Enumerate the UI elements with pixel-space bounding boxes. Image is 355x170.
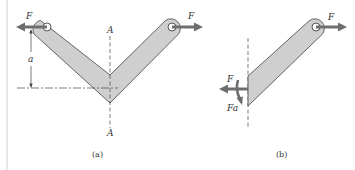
internal-force-label: F [226, 74, 234, 84]
section-label-bottom: A [106, 128, 114, 138]
force-arrow-b-right-icon [338, 23, 347, 32]
free-body-diagram: A A a F F (a) F F [0, 0, 355, 170]
force-arrow-right-icon [194, 23, 203, 32]
panel-b: F F Fa (b) [219, 12, 347, 159]
caption-a: (a) [92, 150, 103, 159]
dimension-arrow-down-icon [29, 84, 32, 89]
panel-a: A A a F F (a) [16, 11, 203, 159]
half-bracket [248, 19, 324, 106]
dimension-label: a [28, 54, 33, 64]
section-label-top: A [106, 25, 114, 35]
dimension-arrow-up-icon [29, 29, 32, 34]
internal-force-arrow-icon [219, 85, 228, 94]
force-label-b-right: F [327, 12, 335, 22]
force-label-right: F [187, 11, 195, 21]
force-arrow-left-icon [16, 23, 25, 32]
force-label-left: F [25, 11, 33, 21]
caption-b: (b) [276, 150, 287, 159]
internal-moment-label: Fa [226, 103, 238, 113]
